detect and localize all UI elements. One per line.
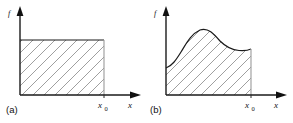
panel-a-plot: f x x 0 (a) [0,0,146,123]
panel-caption-b: (b) [150,104,162,115]
x-axis-arrow-icon-b [276,92,287,99]
y-axis-arrow-icon-a [17,6,24,16]
panel-caption-a: (a) [6,104,18,115]
y-axis-label-a: f [8,9,12,18]
y-axis-arrow-icon-b [163,6,170,16]
x-axis-arrow-icon-a [130,92,141,99]
panel-a: f x x 0 (a) [0,0,146,123]
hatch-fill-b [146,20,293,100]
panel-b-plot: f x x 0 (b) [146,0,293,123]
x-axis-label-b: x [273,100,278,110]
x0-label-a: x [97,100,102,110]
x0-subscript-a: 0 [105,105,108,112]
y-axis-label-b: f [154,9,158,18]
hatch-fill-a [0,20,146,100]
panel-b: f x x 0 (b) [146,0,293,123]
x0-subscript-b: 0 [252,105,255,112]
figure-root: f x x 0 (a) [0,0,293,123]
x-axis-label-a: x [127,100,132,110]
x0-label-b: x [244,100,249,110]
